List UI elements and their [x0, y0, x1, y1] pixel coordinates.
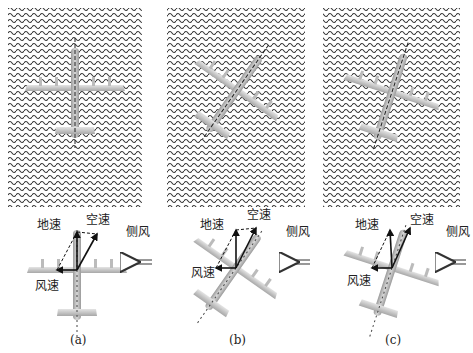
caption-a: (a) — [70, 333, 87, 347]
wave-background-b — [167, 8, 305, 207]
panel-c — [322, 8, 466, 352]
label-ground-speed-a: 地速 — [37, 215, 61, 232]
wave-background-c — [323, 8, 460, 207]
label-air-speed-c: 空速 — [410, 210, 434, 227]
caption-b: (b) — [229, 333, 246, 347]
label-crosswind-a: 侧风 — [126, 222, 150, 239]
label-air-speed-a: 空速 — [86, 210, 110, 227]
panel-a — [8, 8, 152, 340]
aircraft-vector-b-plane — [155, 202, 303, 353]
caption-c: (c) — [385, 333, 401, 347]
figure-canvas — [0, 0, 473, 353]
label-crosswind-c: 侧风 — [446, 222, 470, 239]
label-crosswind-b: 侧风 — [286, 222, 310, 239]
panel-b — [155, 8, 310, 353]
label-wind-speed-a: 风速 — [35, 276, 59, 293]
label-air-speed-b: 空速 — [247, 205, 271, 222]
label-wind-speed-b: 风速 — [191, 263, 215, 280]
aircraft-vector-c-plane — [322, 210, 453, 352]
label-ground-speed-b: 地速 — [200, 215, 224, 232]
label-ground-speed-c: 地速 — [355, 215, 379, 232]
label-wind-speed-c: 风速 — [347, 271, 371, 288]
